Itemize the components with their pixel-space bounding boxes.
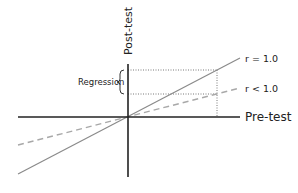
label-r-less-1: r < 1.0: [245, 83, 278, 94]
regression-diagram: Pre-test Post-test r = 1.0 r < 1.0 Regre…: [0, 0, 298, 193]
label-r-equal-1: r = 1.0: [245, 53, 278, 64]
y-axis-label: Post-test: [122, 6, 135, 55]
x-axis-label: Pre-test: [245, 110, 292, 124]
